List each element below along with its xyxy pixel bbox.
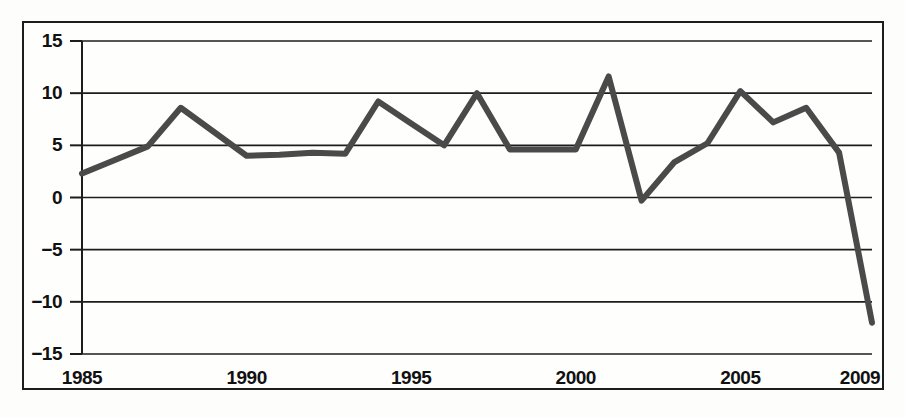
gridlines-group xyxy=(82,41,872,354)
x-tick-label: 2000 xyxy=(541,367,611,389)
x-tick-label: 1985 xyxy=(47,367,117,389)
chart-frame: 151050−5−10−15 198519901995200020052009 xyxy=(22,21,884,390)
y-tick-label: 5 xyxy=(16,134,62,156)
data-series-line xyxy=(82,76,872,322)
y-tick-label: −5 xyxy=(16,239,62,261)
y-tick-label: −10 xyxy=(16,291,62,313)
y-tick-marks-group xyxy=(70,41,82,354)
x-tick-label: 2005 xyxy=(705,367,775,389)
line-chart-canvas xyxy=(24,23,882,388)
scanned-page-background: 151050−5−10−15 198519901995200020052009 xyxy=(0,0,905,417)
y-tick-label: 10 xyxy=(16,82,62,104)
x-tick-label: 2009 xyxy=(825,367,895,389)
y-tick-label: 15 xyxy=(16,30,62,52)
y-tick-label: −15 xyxy=(16,343,62,365)
plot-area xyxy=(24,23,882,388)
x-tick-label: 1995 xyxy=(376,367,446,389)
y-tick-label: 0 xyxy=(16,187,62,209)
x-tick-label: 1990 xyxy=(212,367,282,389)
